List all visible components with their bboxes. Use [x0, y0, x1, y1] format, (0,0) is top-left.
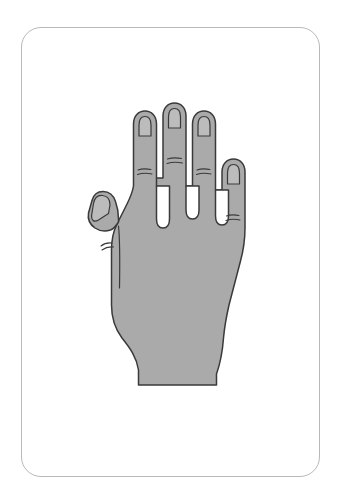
hand-silhouette [112, 103, 246, 385]
finger-gap-index-middle [157, 186, 170, 228]
hand-illustration [0, 0, 343, 498]
hand-figure [88, 103, 245, 385]
card-stage [0, 0, 343, 498]
finger-gap-middle-ring [186, 186, 199, 219]
index-finger-nail [139, 117, 151, 137]
pinky-finger-nail [228, 165, 240, 185]
middle-finger-nail [169, 109, 181, 129]
ring-finger-nail [198, 117, 210, 137]
